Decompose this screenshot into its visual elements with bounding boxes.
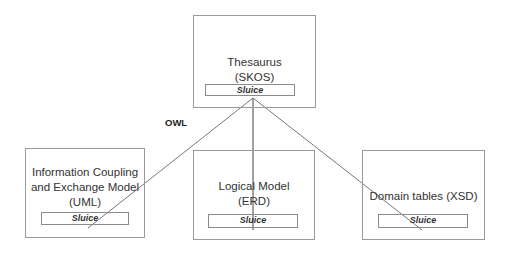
uml-title-line2: and Exchange Model bbox=[26, 180, 144, 195]
thesaurus-subtitle: (SKOS) bbox=[194, 70, 315, 85]
owl-edge-label: OWL bbox=[165, 117, 187, 128]
erd-title-line2: (ERD) bbox=[194, 194, 314, 209]
sluice-component: Sluice bbox=[208, 214, 298, 228]
thesaurus-box: Thesaurus (SKOS) Sluice bbox=[193, 15, 316, 108]
uml-title-line1: Information Coupling bbox=[26, 165, 144, 180]
uml-box: Information Coupling and Exchange Model … bbox=[25, 148, 145, 238]
xsd-title: Domain tables (XSD) bbox=[363, 189, 484, 204]
thesaurus-title: Thesaurus bbox=[194, 55, 315, 70]
sluice-component: Sluice bbox=[378, 214, 468, 228]
erd-box: Logical Model (ERD) Sluice bbox=[193, 150, 315, 240]
sluice-component: Sluice bbox=[205, 84, 295, 96]
uml-title-line3: (UML) bbox=[26, 195, 144, 210]
xsd-box: Domain tables (XSD) Sluice bbox=[362, 150, 485, 240]
sluice-component: Sluice bbox=[41, 212, 129, 225]
erd-title-line1: Logical Model bbox=[194, 179, 314, 194]
